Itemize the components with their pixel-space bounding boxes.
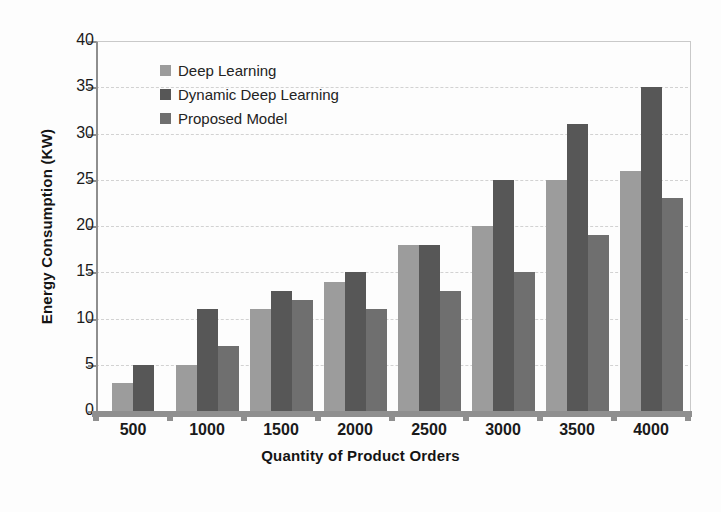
legend-item[interactable]: Proposed Model — [160, 110, 339, 127]
legend-swatch-icon — [160, 65, 171, 76]
legend-item-label: Deep Learning — [178, 62, 276, 79]
y-tick-label: 25 — [38, 170, 94, 188]
bar — [588, 235, 609, 411]
y-tick-label: 40 — [38, 31, 94, 49]
x-tick-label: 4000 — [611, 421, 691, 439]
y-tick-label: 20 — [38, 216, 94, 234]
bar — [218, 346, 239, 411]
x-tick-label: 1500 — [241, 421, 321, 439]
y-tick-label: 15 — [38, 262, 94, 280]
bar — [366, 309, 387, 411]
bar — [250, 309, 271, 411]
x-axis-title: Quantity of Product Orders — [0, 447, 721, 464]
bar — [546, 180, 567, 411]
y-tick-label: 10 — [38, 309, 94, 327]
y-tick-label: 0 — [38, 401, 94, 419]
bar — [197, 309, 218, 411]
x-tick-mark — [463, 411, 469, 421]
x-tick-mark — [685, 411, 691, 421]
x-tick-mark — [389, 411, 395, 421]
y-tick-label: 30 — [38, 124, 94, 142]
bar — [514, 272, 535, 411]
legend-item[interactable]: Dynamic Deep Learning — [160, 86, 339, 103]
x-tick-label: 3000 — [463, 421, 543, 439]
x-tick-label: 500 — [93, 421, 173, 439]
bar — [398, 245, 419, 412]
bar-group — [96, 41, 170, 411]
bar — [641, 87, 662, 411]
bar — [324, 282, 345, 412]
bar — [292, 300, 313, 411]
x-tick-label: 1000 — [167, 421, 247, 439]
bar-group — [540, 41, 614, 411]
bar — [176, 365, 197, 411]
bar — [440, 291, 461, 411]
x-tick-label: 3500 — [537, 421, 617, 439]
bar-chart-figure: Energy Consumption (KW) Quantity of Prod… — [0, 0, 721, 512]
legend-item[interactable]: Deep Learning — [160, 62, 339, 79]
bar-group — [466, 41, 540, 411]
y-tick-label: 5 — [38, 355, 94, 373]
bar — [472, 226, 493, 411]
bar — [419, 245, 440, 412]
y-tick-label: 35 — [38, 77, 94, 95]
chart-legend: Deep LearningDynamic Deep LearningPropos… — [160, 62, 339, 127]
legend-item-label: Proposed Model — [178, 110, 287, 127]
legend-swatch-icon — [160, 89, 171, 100]
x-tick-mark — [93, 411, 99, 421]
x-tick-mark — [537, 411, 543, 421]
bar — [620, 171, 641, 412]
bar — [345, 272, 366, 411]
bar — [493, 180, 514, 411]
x-tick-mark — [611, 411, 617, 421]
x-tick-mark — [167, 411, 173, 421]
x-tick-mark — [315, 411, 321, 421]
bar-group — [392, 41, 466, 411]
legend-swatch-icon — [160, 113, 171, 124]
x-tick-label: 2500 — [389, 421, 469, 439]
x-tick-mark — [241, 411, 247, 421]
bar — [271, 291, 292, 411]
bar — [112, 383, 133, 411]
legend-item-label: Dynamic Deep Learning — [178, 86, 339, 103]
x-tick-label: 2000 — [315, 421, 395, 439]
bar — [133, 365, 154, 411]
bar — [662, 198, 683, 411]
bar — [567, 124, 588, 411]
bar-group — [614, 41, 688, 411]
